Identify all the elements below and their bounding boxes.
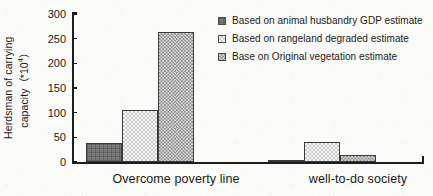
y-axis-tick-mark bbox=[72, 13, 77, 15]
legend-item-3: Base on Original vegetation estimate bbox=[218, 52, 423, 62]
y-axis-tick-label: 0 bbox=[60, 157, 66, 168]
bar-3-group-2 bbox=[340, 155, 376, 162]
x-axis-end-tick bbox=[422, 156, 424, 164]
y-axis-tick-mark bbox=[72, 137, 77, 139]
bar-2-group-2 bbox=[304, 142, 340, 162]
legend-swatch-icon bbox=[218, 35, 226, 43]
y-axis-tick-label: 150 bbox=[48, 83, 66, 94]
legend: Based on animal husbandry GDP estimateBa… bbox=[218, 16, 423, 62]
bar-chart: Herdsman of carrying capacity（*104） 0501… bbox=[0, 0, 433, 196]
legend-label: Base on Original vegetation estimate bbox=[232, 52, 397, 62]
y-axis-tick-labels: 050100150200250300 bbox=[34, 0, 70, 196]
y-axis-title: Herdsman of carrying capacity（*104） bbox=[0, 0, 33, 176]
legend-label: Based on animal husbandry GDP estimate bbox=[232, 16, 423, 26]
y-axis-title-tail: ） bbox=[17, 48, 29, 58]
y-axis-tick-mark bbox=[72, 63, 77, 65]
y-axis-tick-label: 100 bbox=[48, 107, 66, 118]
y-axis-tick-label: 200 bbox=[48, 58, 66, 69]
bar-1-group-1 bbox=[86, 143, 122, 162]
x-axis-line bbox=[72, 162, 424, 164]
legend-item-2: Based on rangeland degraded estimate bbox=[218, 34, 423, 44]
y-axis-title-line-1: Herdsman of carrying bbox=[2, 37, 14, 139]
y-axis-title-line-2: capacity（*10 bbox=[17, 62, 29, 127]
y-axis-tick-mark bbox=[72, 87, 77, 89]
y-axis-tick-label: 250 bbox=[48, 33, 66, 44]
legend-label: Based on rangeland degraded estimate bbox=[232, 34, 409, 44]
y-axis-tick-mark bbox=[72, 161, 77, 163]
legend-swatch-icon bbox=[218, 17, 226, 25]
y-axis-tick-label: 50 bbox=[54, 132, 66, 143]
bar-2-group-1 bbox=[122, 110, 158, 162]
y-axis-tick-mark bbox=[72, 112, 77, 114]
legend-item-1: Based on animal husbandry GDP estimate bbox=[218, 16, 423, 26]
bar-1-group-2 bbox=[268, 160, 304, 162]
x-axis-category-label: well-to-do society bbox=[238, 172, 433, 186]
y-axis-tick-label: 300 bbox=[48, 9, 66, 20]
y-axis-tick-mark bbox=[72, 38, 77, 40]
legend-swatch-icon bbox=[218, 53, 226, 61]
y-axis-title-exponent: 4 bbox=[16, 58, 25, 62]
bar-3-group-1 bbox=[158, 32, 194, 162]
